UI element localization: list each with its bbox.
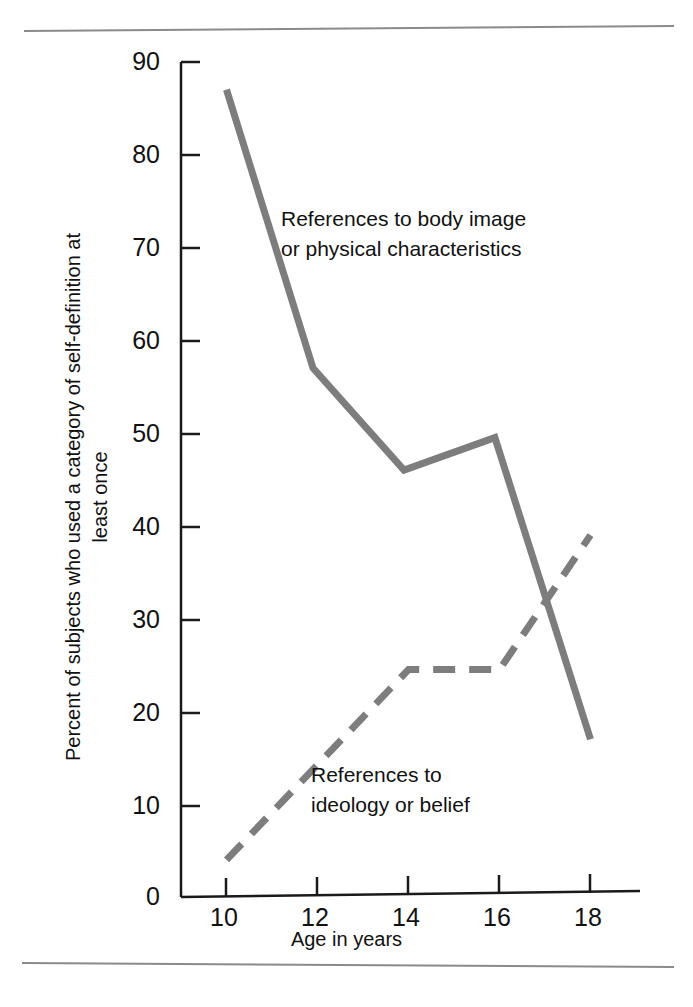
- y-tick-label-10: 10: [100, 793, 160, 818]
- y-axis-title: Percent of subjects who used a category …: [60, 217, 114, 777]
- x-tick-label-18: 18: [574, 905, 602, 930]
- y-tick-label-90: 90: [100, 49, 160, 74]
- annotation-body-image: References to body image or physical cha…: [281, 204, 526, 264]
- x-tick-label-14: 14: [392, 905, 420, 930]
- x-tick-label-16: 16: [483, 905, 511, 930]
- x-axis-line: [181, 891, 640, 897]
- x-axis-title: Age in years: [0, 928, 693, 951]
- x-tick-label-12: 12: [301, 905, 329, 930]
- annotation-ideology: References to ideology or belief: [311, 760, 470, 820]
- series-body-image-line: [227, 90, 591, 740]
- y-axis-ticks: [181, 62, 200, 806]
- figure-container: 90 80 70 60 50 40 30 20 10 0 10 12 14 16…: [0, 0, 693, 1007]
- y-tick-label-80: 80: [100, 142, 160, 167]
- y-tick-label-0: 0: [100, 884, 160, 909]
- x-tick-label-10: 10: [210, 905, 238, 930]
